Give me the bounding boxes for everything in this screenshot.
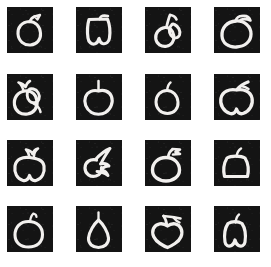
sketch-cell-4[interactable] xyxy=(214,7,260,53)
apple-sketch-13-icon xyxy=(7,206,53,252)
apple-sketch-10-icon xyxy=(76,140,122,186)
sketch-grid xyxy=(0,0,271,267)
sketch-cell-6[interactable] xyxy=(76,74,122,120)
sketch-cell-1[interactable] xyxy=(7,7,53,53)
apple-sketch-7-icon xyxy=(145,74,191,120)
apple-sketch-5-icon xyxy=(7,74,53,120)
apple-sketch-1-icon xyxy=(7,7,53,53)
sketch-cell-13[interactable] xyxy=(7,206,53,252)
apple-sketch-14-icon xyxy=(76,206,122,252)
apple-sketch-3-icon xyxy=(145,7,191,53)
apple-sketch-11-icon xyxy=(145,140,191,186)
sketch-cell-11[interactable] xyxy=(145,140,191,186)
apple-sketch-16-icon xyxy=(214,206,260,252)
apple-sketch-6-icon xyxy=(76,74,122,120)
apple-sketch-4-icon xyxy=(214,7,260,53)
apple-sketch-2-icon xyxy=(76,7,122,53)
sketch-cell-15[interactable] xyxy=(145,206,191,252)
sketch-cell-16[interactable] xyxy=(214,206,260,252)
apple-sketch-12-icon xyxy=(214,140,260,186)
sketch-cell-9[interactable] xyxy=(7,140,53,186)
sketch-cell-2[interactable] xyxy=(76,7,122,53)
apple-sketch-9-icon xyxy=(7,140,53,186)
sketch-cell-12[interactable] xyxy=(214,140,260,186)
sketch-cell-7[interactable] xyxy=(145,74,191,120)
sketch-cell-8[interactable] xyxy=(214,74,260,120)
apple-sketch-15-icon xyxy=(145,206,191,252)
sketch-cell-3[interactable] xyxy=(145,7,191,53)
sketch-cell-14[interactable] xyxy=(76,206,122,252)
sketch-cell-10[interactable] xyxy=(76,140,122,186)
apple-sketch-8-icon xyxy=(214,74,260,120)
sketch-cell-5[interactable] xyxy=(7,74,53,120)
